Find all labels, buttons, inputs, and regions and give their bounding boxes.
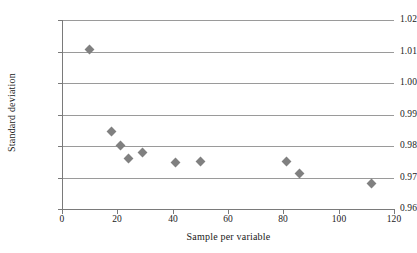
x-tick-label: 0	[42, 215, 82, 225]
y-tick-label: 1.00	[363, 78, 417, 88]
x-tick-label: 120	[374, 215, 414, 225]
x-tick-label: 80	[263, 215, 303, 225]
y-tick-label: 1.01	[363, 47, 417, 57]
gridline	[62, 52, 394, 53]
x-tick-label: 60	[208, 215, 248, 225]
data-point-marker	[170, 157, 180, 167]
gridline	[62, 178, 394, 179]
gridline	[62, 20, 394, 21]
data-point-marker	[115, 141, 125, 151]
gridline	[62, 115, 394, 116]
y-tick-label: 1.02	[363, 15, 417, 25]
data-point-marker	[85, 45, 95, 55]
data-point-marker	[295, 168, 305, 178]
y-tick-label: 0.98	[363, 141, 417, 151]
x-axis-line	[62, 209, 395, 210]
gridline	[62, 83, 394, 84]
data-point-marker	[137, 148, 147, 158]
gridline	[62, 146, 394, 147]
y-axis-line	[62, 20, 63, 210]
y-tick-label: 0.99	[363, 110, 417, 120]
x-tick-label: 100	[319, 215, 359, 225]
x-tick-label: 20	[97, 215, 137, 225]
data-point-marker	[107, 127, 117, 137]
x-axis-title: Sample per variable	[62, 231, 395, 242]
data-point-marker	[195, 156, 205, 166]
x-tick-label: 40	[153, 215, 193, 225]
scatter-chart: 0.960.970.980.991.001.011.02 02040608010…	[0, 0, 417, 253]
data-point-marker	[123, 154, 133, 164]
y-axis-title: Standard deviation	[6, 53, 17, 173]
data-point-marker	[281, 157, 291, 167]
